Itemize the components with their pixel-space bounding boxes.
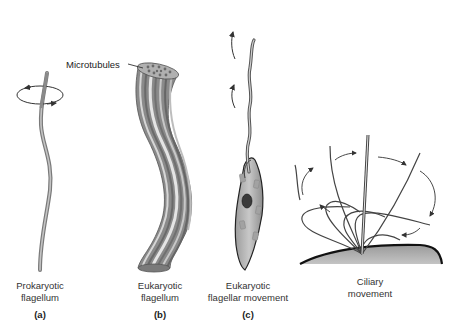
caption-line: Eukaryotic [125,280,195,292]
panel-label-c: (c) [233,309,263,320]
caption-line: flagellar movement [203,292,293,304]
caption-line: Prokaryotic [5,280,75,292]
nucleus [242,194,252,208]
caption-line: Eukaryotic [203,280,293,292]
caption-line: flagellum [5,292,75,304]
caption-prokaryotic: Prokaryotic flagellum [5,280,75,304]
ciliary-movement [295,135,442,264]
caption-line: Ciliary [335,276,405,288]
movement-arrow-icon [232,32,235,108]
panel-label-a: (a) [25,309,55,320]
microtubules-label: Microtubules [66,59,120,70]
caption-line: movement [335,288,405,300]
caption-eukaryotic-movement: Eukaryotic flagellar movement [203,280,293,304]
eukaryotic-cell-with-flagellum [235,40,263,270]
caption-line: flagellum [125,292,195,304]
caption-eukaryotic-flagellum: Eukaryotic flagellum [125,280,195,304]
panel-label-b: (b) [145,309,175,320]
eukaryotic-flagellum [136,60,192,272]
rotation-arrow-icon [17,73,63,108]
caption-ciliary-movement: Ciliary movement [335,276,405,300]
